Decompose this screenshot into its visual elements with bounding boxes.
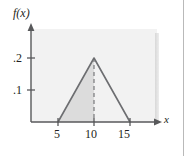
page-right-rule [183,0,184,156]
x-axis-arrowhead [154,119,162,126]
y-axis-arrowhead [28,23,35,31]
x-tick-label-5: 5 [54,128,60,140]
x-axis-label: x [164,114,169,125]
y-tick-label-0.2: .2 [13,52,22,64]
density-function-figure: f(x) x .2 .1 5 10 15 [0,0,187,156]
x-tick-label-10: 10 [85,128,97,140]
y-axis-label: f(x) [13,7,30,19]
x-tick-label-15: 15 [118,128,130,140]
y-tick-label-0.1: .1 [13,84,22,96]
